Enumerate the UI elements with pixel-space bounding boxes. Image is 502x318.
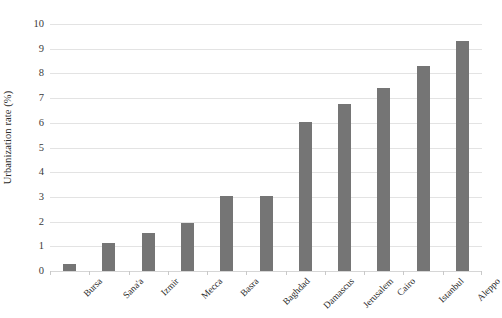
- y-axis-tick-label: 10: [18, 19, 44, 30]
- x-axis-tick-label: Istanbul: [437, 276, 466, 305]
- x-axis-tick: [325, 271, 326, 275]
- y-axis-tick-label: 8: [18, 68, 44, 79]
- x-axis-tick-label: Mecca: [200, 276, 225, 301]
- y-axis-title-text: Urbanization rate (%): [3, 91, 14, 185]
- x-axis-tick-label: Izmir: [159, 276, 181, 298]
- x-axis-tick: [286, 271, 287, 275]
- y-axis-tick-label: 0: [18, 266, 44, 277]
- bar[interactable]: [220, 196, 233, 271]
- y-axis-tick-label: 4: [18, 167, 44, 178]
- bar[interactable]: [299, 122, 312, 271]
- bar[interactable]: [456, 41, 469, 271]
- x-axis-tick-label: Jerusalem: [361, 276, 395, 310]
- y-axis-tick-label: 7: [18, 93, 44, 104]
- bar[interactable]: [142, 233, 155, 271]
- bar[interactable]: [417, 66, 430, 271]
- x-axis-tick: [50, 271, 51, 275]
- y-axis-tick-label: 9: [18, 43, 44, 54]
- x-axis-tick: [246, 271, 247, 275]
- x-axis-tick: [443, 271, 444, 275]
- x-axis-tick-label: Basra: [238, 276, 260, 298]
- y-axis-title: Urbanization rate (%): [0, 0, 16, 275]
- y-axis-tick-label: 2: [18, 216, 44, 227]
- bar[interactable]: [102, 243, 115, 271]
- x-axis-tick: [364, 271, 365, 275]
- x-axis-tick-label: Baghdad: [281, 276, 312, 307]
- bar[interactable]: [338, 104, 351, 271]
- y-axis-tick-label: 3: [18, 192, 44, 203]
- x-axis-tick-label: Damascus: [322, 276, 357, 311]
- bars-container: [50, 24, 482, 271]
- y-axis-tick-label: 6: [18, 118, 44, 129]
- bar[interactable]: [260, 196, 273, 271]
- x-axis-tick: [129, 271, 130, 275]
- x-axis-tick: [403, 271, 404, 275]
- x-axis-tick-label: Sana'a: [121, 276, 145, 300]
- x-axis-tick: [207, 271, 208, 275]
- bar[interactable]: [377, 88, 390, 271]
- y-axis-tick-label: 1: [18, 241, 44, 252]
- y-axis-tick-labels: 012345678910: [18, 24, 44, 271]
- x-axis-tick-labels: BursaSana'aIzmirMeccaBasraBaghdadDamascu…: [50, 276, 482, 318]
- x-axis-tick: [481, 271, 482, 275]
- bar[interactable]: [63, 264, 76, 271]
- x-axis-tick: [89, 271, 90, 275]
- x-axis-tick: [168, 271, 169, 275]
- plot-area: [50, 24, 482, 271]
- bar[interactable]: [181, 223, 194, 271]
- x-axis-tick-label: Aleppo: [476, 276, 502, 303]
- y-axis-tick-label: 5: [18, 142, 44, 153]
- x-axis-tick-label: Bursa: [81, 276, 104, 299]
- x-axis-tick-label: Cairo: [395, 276, 417, 298]
